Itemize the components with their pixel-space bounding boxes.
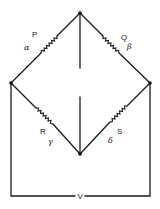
label-gamma: γ bbox=[48, 137, 53, 146]
wire-s-upper bbox=[127, 83, 150, 106]
wire-r-upper bbox=[11, 83, 36, 108]
node-bottom bbox=[78, 152, 82, 156]
wheatstone-bridge-diagram: P α Q β R γ S δ V bbox=[0, 0, 160, 209]
arm-p: P α bbox=[11, 13, 80, 83]
node-top bbox=[78, 11, 82, 15]
arm-r: R γ bbox=[11, 83, 80, 154]
label-r: R bbox=[40, 127, 46, 136]
resistor-p bbox=[41, 36, 57, 53]
label-delta: δ bbox=[108, 136, 113, 145]
label-alpha: α bbox=[24, 43, 30, 52]
label-s: S bbox=[117, 127, 122, 136]
wire-p-upper bbox=[57, 13, 80, 36]
label-q: Q bbox=[121, 33, 127, 42]
source-wire-right bbox=[85, 83, 150, 196]
wire-p-lower bbox=[11, 53, 41, 83]
label-p: P bbox=[32, 30, 37, 39]
resistor-s bbox=[110, 106, 127, 122]
source-wire-left bbox=[11, 83, 75, 196]
label-beta: β bbox=[126, 42, 132, 51]
node-right bbox=[148, 81, 152, 85]
node-left bbox=[9, 81, 13, 85]
wire-s-lower bbox=[80, 122, 110, 154]
arm-s: S δ bbox=[80, 83, 150, 154]
wire-q-upper bbox=[80, 13, 103, 36]
wire-r-lower bbox=[53, 124, 80, 154]
arm-q: Q β bbox=[80, 13, 150, 83]
resistor-q bbox=[103, 36, 119, 53]
source-label-v: V bbox=[78, 192, 84, 201]
resistor-r bbox=[36, 108, 53, 124]
wire-q-lower bbox=[119, 53, 150, 83]
